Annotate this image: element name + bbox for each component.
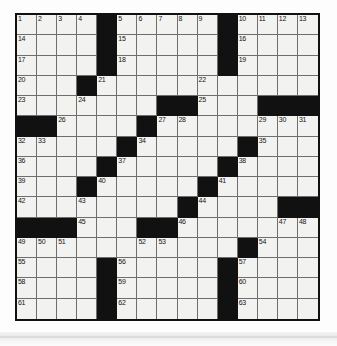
crossword-cell[interactable] (218, 116, 238, 136)
crossword-cell[interactable]: 7 (157, 15, 177, 35)
crossword-cell[interactable] (178, 238, 198, 258)
crossword-cell[interactable] (218, 197, 238, 217)
crossword-cell[interactable] (178, 278, 198, 298)
crossword-cell[interactable]: 4 (77, 15, 97, 35)
crossword-cell[interactable] (77, 278, 97, 298)
crossword-cell[interactable] (258, 35, 278, 55)
crossword-cell[interactable]: 60 (238, 278, 258, 298)
crossword-cell[interactable] (77, 56, 97, 76)
crossword-cell[interactable] (278, 299, 298, 319)
crossword-cell[interactable] (117, 76, 137, 96)
crossword-cell[interactable] (298, 157, 318, 177)
crossword-cell[interactable]: 15 (117, 35, 137, 55)
crossword-cell[interactable] (198, 116, 218, 136)
crossword-cell[interactable] (258, 299, 278, 319)
crossword-cell[interactable]: 9 (198, 15, 218, 35)
crossword-cell[interactable] (137, 157, 157, 177)
crossword-cell[interactable] (97, 96, 117, 116)
crossword-cell[interactable] (198, 278, 218, 298)
crossword-cell[interactable]: 40 (97, 177, 117, 197)
crossword-cell[interactable] (37, 278, 57, 298)
crossword-cell[interactable] (117, 177, 137, 197)
crossword-cell[interactable]: 14 (17, 35, 37, 55)
crossword-cell[interactable] (198, 258, 218, 278)
crossword-cell[interactable] (278, 278, 298, 298)
crossword-cell[interactable] (37, 76, 57, 96)
crossword-cell[interactable]: 32 (17, 137, 37, 157)
crossword-cell[interactable]: 20 (17, 76, 37, 96)
crossword-cell[interactable] (137, 258, 157, 278)
crossword-cell[interactable] (298, 177, 318, 197)
crossword-cell[interactable] (137, 35, 157, 55)
crossword-cell[interactable] (37, 197, 57, 217)
crossword-cell[interactable]: 39 (17, 177, 37, 197)
crossword-cell[interactable] (57, 35, 77, 55)
crossword-cell[interactable]: 49 (17, 238, 37, 258)
crossword-cell[interactable]: 62 (117, 299, 137, 319)
crossword-cell[interactable] (157, 299, 177, 319)
crossword-cell[interactable] (117, 96, 137, 116)
crossword-cell[interactable] (137, 56, 157, 76)
crossword-cell[interactable]: 33 (37, 137, 57, 157)
crossword-cell[interactable] (218, 218, 238, 238)
crossword-grid[interactable]: 1234567891011121314151617181920212223242… (17, 15, 318, 319)
crossword-cell[interactable] (278, 35, 298, 55)
crossword-cell[interactable] (298, 35, 318, 55)
crossword-cell[interactable]: 35 (258, 137, 278, 157)
crossword-cell[interactable]: 24 (77, 96, 97, 116)
crossword-cell[interactable] (137, 177, 157, 197)
crossword-cell[interactable] (57, 137, 77, 157)
crossword-cell[interactable] (238, 177, 258, 197)
crossword-cell[interactable] (137, 278, 157, 298)
crossword-cell[interactable]: 29 (258, 116, 278, 136)
crossword-cell[interactable] (157, 157, 177, 177)
crossword-cell[interactable] (117, 218, 137, 238)
crossword-cell[interactable] (57, 299, 77, 319)
crossword-cell[interactable] (77, 258, 97, 278)
crossword-cell[interactable]: 25 (198, 96, 218, 116)
crossword-cell[interactable]: 19 (238, 56, 258, 76)
crossword-cell[interactable]: 22 (198, 76, 218, 96)
crossword-cell[interactable] (258, 218, 278, 238)
crossword-cell[interactable]: 53 (157, 238, 177, 258)
crossword-cell[interactable] (157, 177, 177, 197)
crossword-cell[interactable]: 46 (178, 218, 198, 238)
crossword-cell[interactable]: 10 (238, 15, 258, 35)
crossword-cell[interactable] (97, 116, 117, 136)
crossword-cell[interactable]: 8 (178, 15, 198, 35)
crossword-cell[interactable] (198, 218, 218, 238)
crossword-cell[interactable] (157, 197, 177, 217)
crossword-cell[interactable] (198, 299, 218, 319)
crossword-cell[interactable] (178, 137, 198, 157)
crossword-cell[interactable]: 50 (37, 238, 57, 258)
crossword-cell[interactable] (157, 278, 177, 298)
crossword-cell[interactable] (298, 56, 318, 76)
crossword-cell[interactable] (117, 116, 137, 136)
crossword-cell[interactable] (198, 157, 218, 177)
crossword-cell[interactable] (258, 157, 278, 177)
crossword-cell[interactable] (37, 56, 57, 76)
crossword-cell[interactable]: 47 (278, 218, 298, 238)
crossword-cell[interactable]: 51 (57, 238, 77, 258)
crossword-cell[interactable] (77, 157, 97, 177)
crossword-cell[interactable]: 54 (258, 238, 278, 258)
crossword-cell[interactable] (238, 116, 258, 136)
crossword-cell[interactable] (298, 76, 318, 96)
crossword-cell[interactable]: 3 (57, 15, 77, 35)
crossword-cell[interactable]: 38 (238, 157, 258, 177)
crossword-cell[interactable] (238, 197, 258, 217)
crossword-cell[interactable]: 13 (298, 15, 318, 35)
crossword-cell[interactable] (137, 76, 157, 96)
crossword-cell[interactable] (37, 35, 57, 55)
crossword-cell[interactable]: 42 (17, 197, 37, 217)
crossword-cell[interactable] (278, 56, 298, 76)
crossword-cell[interactable] (157, 35, 177, 55)
crossword-cell[interactable]: 1 (17, 15, 37, 35)
crossword-cell[interactable] (37, 299, 57, 319)
crossword-cell[interactable] (97, 137, 117, 157)
crossword-cell[interactable] (298, 278, 318, 298)
crossword-cell[interactable] (298, 299, 318, 319)
crossword-cell[interactable]: 17 (17, 56, 37, 76)
crossword-cell[interactable] (57, 76, 77, 96)
crossword-cell[interactable]: 57 (238, 258, 258, 278)
